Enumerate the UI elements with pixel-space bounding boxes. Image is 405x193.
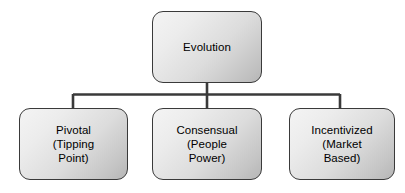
node-child-consensual-label: Consensual (People Power)	[172, 123, 241, 166]
node-child-pivotal-label: Pivotal (Tipping Point)	[49, 123, 99, 166]
node-root-label: Evolution	[179, 40, 235, 54]
hierarchy-diagram: Evolution Pivotal (Tipping Point) Consen…	[0, 0, 405, 193]
node-child-incentivized-label: Incentivized (Market Based)	[307, 123, 376, 166]
node-child-incentivized[interactable]: Incentivized (Market Based)	[289, 108, 395, 180]
node-root-evolution[interactable]: Evolution	[152, 11, 262, 83]
node-child-consensual[interactable]: Consensual (People Power)	[152, 108, 262, 180]
node-child-pivotal[interactable]: Pivotal (Tipping Point)	[19, 108, 128, 180]
